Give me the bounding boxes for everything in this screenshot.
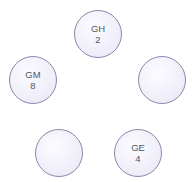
node-name: GM (25, 69, 40, 80)
node-ge[interactable]: GE 4 (114, 129, 162, 177)
node-name: GE (131, 142, 145, 153)
node-gm[interactable]: GM 8 (9, 56, 57, 104)
node-empty-right[interactable] (138, 56, 186, 104)
node-gh[interactable]: GH 2 (74, 10, 122, 58)
node-value: 2 (95, 34, 100, 45)
node-value: 4 (135, 153, 140, 164)
node-empty-bottom-left[interactable] (35, 129, 83, 177)
node-name: GH (91, 23, 105, 34)
node-value: 8 (30, 80, 35, 91)
